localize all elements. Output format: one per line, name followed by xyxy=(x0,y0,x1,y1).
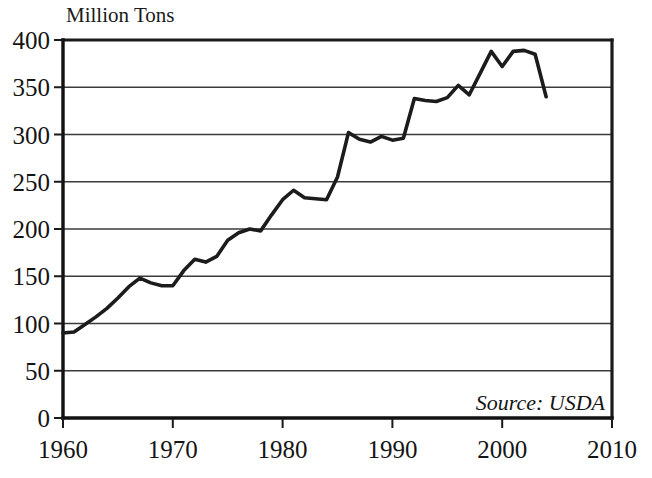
y-tick-label-50: 50 xyxy=(25,358,50,385)
x-tick-label-2000: 2000 xyxy=(477,436,527,463)
y-tick-label-250: 250 xyxy=(13,169,51,196)
y-tick-label-200: 200 xyxy=(13,216,51,243)
chart-container: Million Tons 050100150200250300350400 19… xyxy=(0,0,652,478)
y-axis-title: Million Tons xyxy=(66,3,174,27)
x-tick-label-1990: 1990 xyxy=(367,436,417,463)
y-tick-label-400: 400 xyxy=(13,27,51,54)
y-tick-label-0: 0 xyxy=(38,405,51,432)
y-tick-label-300: 300 xyxy=(13,122,51,149)
y-axis-tick-labels: 050100150200250300350400 xyxy=(13,27,51,432)
x-axis-tick-labels: 196019701980199020002010 xyxy=(38,436,637,463)
gridlines xyxy=(63,87,612,371)
y-tick-label-350: 350 xyxy=(13,74,51,101)
x-tick-label-1960: 1960 xyxy=(38,436,88,463)
x-tick-label-1970: 1970 xyxy=(148,436,198,463)
source-note: Source: USDA xyxy=(476,390,606,415)
x-tick-label-2010: 2010 xyxy=(587,436,637,463)
y-tick-label-100: 100 xyxy=(13,311,51,338)
x-tick-label-1980: 1980 xyxy=(258,436,308,463)
line-chart: Million Tons 050100150200250300350400 19… xyxy=(0,0,652,478)
data-series-line xyxy=(63,50,546,333)
y-tick-label-150: 150 xyxy=(13,263,51,290)
